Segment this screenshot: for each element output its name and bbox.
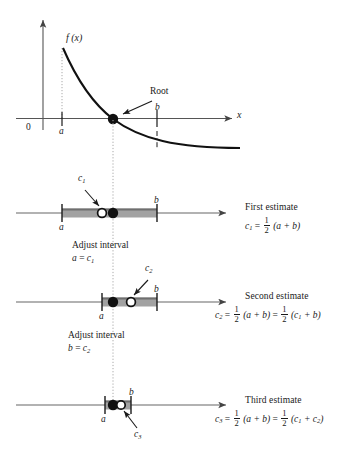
c2-arrow — [134, 280, 148, 295]
row-second-estimate-graphics — [16, 280, 226, 311]
one-half-fraction: 12 — [264, 216, 270, 234]
root-label: Root — [150, 87, 168, 97]
third-estimate-formula: c3 = 12 (a + b) = 12 (c1 + c2) — [215, 409, 323, 427]
tick-a-row2-label: a — [99, 312, 104, 322]
root-point — [108, 114, 118, 124]
root-point-row2 — [108, 297, 118, 307]
tick-b-row3-label: b — [129, 388, 134, 398]
tick-a-graph-label: a — [59, 127, 64, 137]
first-estimate-title: First estimate — [245, 203, 298, 213]
function-label: f (x) — [66, 33, 82, 44]
one-half-fraction: 12 — [234, 409, 240, 427]
second-estimate-formula: c2 = 12 (a + b) = 12 (c1 + b) — [215, 305, 321, 323]
adjust-interval-1-line2: a = c1 — [72, 254, 94, 265]
root-point-row1 — [108, 208, 118, 218]
c2-label: c2 — [145, 264, 152, 275]
adjust-interval-2-line1: Adjust interval — [68, 331, 125, 341]
one-half-fraction-2: 12 — [281, 409, 287, 427]
one-half-fraction-2: 12 — [281, 305, 287, 323]
one-half-fraction: 12 — [234, 305, 240, 323]
function-curve — [63, 48, 240, 148]
tick-a-row3-label: a — [101, 415, 106, 425]
tick-b-row2-label: b — [154, 285, 159, 295]
c1-label: c1 — [78, 174, 85, 185]
row-third-estimate-graphics — [16, 396, 226, 428]
second-estimate-title: Second estimate — [245, 292, 309, 302]
estimate-point-c1 — [98, 209, 107, 218]
tick-b-row1-label: b — [154, 196, 159, 206]
adjust-interval-1-line1: Adjust interval — [72, 241, 129, 251]
bisection-method-figure: f (x) 0 a b Root x c1 a b First estimate… — [0, 0, 347, 455]
c3-label: c3 — [134, 430, 141, 441]
first-estimate-formula: c1 = 12 (a + b) — [245, 216, 300, 234]
origin-label: 0 — [26, 123, 31, 133]
adjust-interval-2-line2: b = c2 — [68, 344, 90, 355]
estimate-point-c3 — [117, 401, 125, 409]
root-arrow — [123, 101, 152, 114]
third-estimate-title: Third estimate — [245, 396, 302, 406]
row-first-estimate-graphics — [16, 190, 226, 222]
c1-arrow — [85, 190, 99, 206]
estimate-point-c2 — [127, 298, 136, 307]
x-axis-label: x — [237, 110, 241, 121]
tick-a-row1-label: a — [59, 223, 64, 233]
tick-b-graph-label: b — [155, 103, 160, 113]
